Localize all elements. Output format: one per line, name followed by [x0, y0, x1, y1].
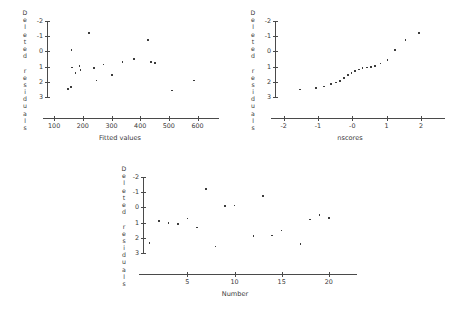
x-axis-tick — [352, 116, 353, 121]
x-axis-tick-label: 20 — [319, 279, 339, 285]
data-point — [366, 67, 368, 69]
x-axis-tick-label: 5 — [177, 279, 197, 285]
data-point — [330, 83, 332, 85]
y-axis-line — [143, 177, 144, 253]
x-axis-tick — [54, 116, 55, 121]
data-point — [205, 188, 207, 190]
x-axis-tick-label: 200 — [73, 123, 93, 129]
x-axis-title-fitted: Fitted values — [60, 135, 180, 142]
data-point — [380, 63, 382, 65]
data-point — [319, 214, 321, 216]
x-axis-tick-label: 300 — [102, 123, 122, 129]
y-axis-tick-label: 2 — [253, 79, 271, 85]
data-point — [299, 89, 301, 91]
data-point — [122, 61, 124, 63]
x-axis-tick — [318, 116, 319, 121]
x-axis-line — [271, 118, 445, 119]
data-point — [351, 72, 353, 74]
y-axis-line — [47, 21, 48, 97]
data-point — [362, 67, 364, 69]
y-axis-tick — [45, 36, 50, 37]
data-point — [405, 39, 407, 41]
x-axis-tick-label: 100 — [44, 123, 64, 129]
data-point — [271, 235, 273, 237]
x-axis-tick — [112, 116, 113, 121]
y-axis-tick — [273, 21, 278, 22]
y-axis-tick — [141, 223, 146, 224]
data-point — [168, 222, 170, 224]
y-axis-tick-label: 0 — [253, 48, 271, 54]
y-axis-tick — [45, 67, 50, 68]
y-axis-tick-label: -2 — [253, 18, 271, 24]
x-axis-tick — [140, 116, 141, 121]
y-axis-tick — [273, 36, 278, 37]
data-point — [71, 49, 73, 51]
x-axis-tick-label: 600 — [188, 123, 208, 129]
y-axis-tick — [45, 51, 50, 52]
data-point — [149, 242, 151, 244]
data-point — [262, 195, 264, 197]
x-axis-tick — [282, 272, 283, 277]
y-axis-tick-label: -1 — [25, 33, 43, 39]
y-axis-tick — [273, 97, 278, 98]
data-point — [374, 65, 376, 67]
x-axis-line — [139, 274, 357, 275]
data-point — [347, 74, 349, 76]
y-axis-tick — [141, 238, 146, 239]
y-axis-tick-label: 0 — [25, 48, 43, 54]
data-point — [133, 58, 135, 60]
y-axis-tick — [141, 253, 146, 254]
y-axis-tick-label: 2 — [121, 235, 139, 241]
y-axis-tick — [273, 82, 278, 83]
data-point — [71, 67, 73, 69]
x-axis-tick — [198, 116, 199, 121]
data-point — [150, 61, 152, 63]
y-axis-line — [275, 21, 276, 97]
x-axis-tick — [187, 272, 188, 277]
x-axis-tick — [284, 116, 285, 121]
x-axis-tick — [421, 116, 422, 121]
y-axis-tick — [45, 97, 50, 98]
x-axis-tick-label: 1 — [377, 123, 397, 129]
y-axis-tick — [141, 207, 146, 208]
data-point — [339, 80, 341, 82]
y-axis-tick — [273, 51, 278, 52]
data-point — [315, 87, 317, 89]
number-panel: Deleted residuals 3210-1-25101520 Number — [115, 158, 375, 315]
data-point — [154, 62, 156, 64]
y-axis-tick-label: -2 — [121, 174, 139, 180]
y-axis-tick — [141, 192, 146, 193]
data-point — [370, 66, 372, 68]
data-point — [387, 59, 389, 61]
data-point — [177, 223, 179, 225]
fitted-values-panel: Deleted residuals 3210-1-210020030040050… — [0, 0, 229, 158]
data-point — [354, 70, 356, 72]
x-axis-title-number: Number — [175, 291, 295, 298]
x-axis-tick-label: -1 — [308, 123, 328, 129]
y-axis-tick — [273, 67, 278, 68]
x-axis-tick — [83, 116, 84, 121]
x-axis-tick-label: 2 — [411, 123, 431, 129]
x-axis-tick-label: -2 — [274, 123, 294, 129]
y-axis-tick-label: 1 — [253, 64, 271, 70]
data-point — [103, 64, 105, 66]
data-point — [309, 219, 311, 221]
data-point — [70, 86, 72, 88]
nscores-panel: Deleted residuals 3210-1-2-2-1-012 nscor… — [230, 0, 459, 158]
data-point — [111, 74, 113, 76]
data-point — [187, 218, 189, 220]
y-axis-tick — [45, 82, 50, 83]
x-axis-tick-label: 15 — [272, 279, 292, 285]
x-axis-tick — [169, 116, 170, 121]
y-axis-tick-label: 0 — [121, 204, 139, 210]
y-axis-tick-label: 3 — [253, 94, 271, 100]
data-point — [343, 77, 345, 79]
data-point — [96, 80, 98, 82]
data-point — [328, 217, 330, 219]
y-axis-tick-label: -2 — [25, 18, 43, 24]
data-point — [224, 205, 226, 207]
y-axis-tick — [141, 177, 146, 178]
y-axis-tick-label: 1 — [121, 220, 139, 226]
y-axis-tick-label: 2 — [25, 79, 43, 85]
data-point — [418, 32, 420, 34]
